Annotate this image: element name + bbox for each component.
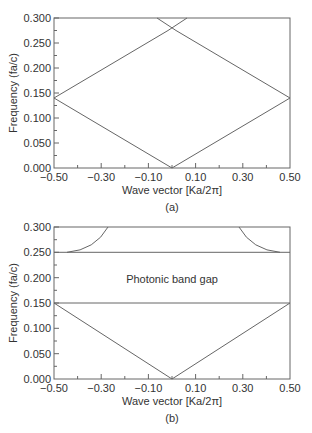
svg-text:0.250: 0.250 — [23, 37, 51, 49]
svg-text:0.100: 0.100 — [23, 322, 51, 334]
chart-a-frame — [54, 18, 290, 168]
chart-b-curves — [54, 227, 290, 379]
chart-a-y-ticks — [54, 18, 59, 156]
svg-text:0.300: 0.300 — [23, 12, 51, 24]
chart-b-band-gap-annotation: Photonic band gap — [126, 273, 218, 285]
chart-a-y-tick-labels: 0.300 0.250 0.200 0.150 0.100 0.050 0.00… — [23, 12, 51, 174]
chart-a-x-axis-label: Wave vector [Ka/2π] — [122, 184, 222, 196]
svg-text:0.10: 0.10 — [185, 382, 206, 394]
chart-b-y-ticks — [54, 227, 59, 366]
svg-text:−0.50: −0.50 — [40, 382, 68, 394]
svg-text:0.250: 0.250 — [23, 246, 51, 258]
chart-a-x-tick-labels: −0.50 −0.30 −0.10 0.10 0.30 0.50 — [40, 171, 301, 183]
svg-text:−0.10: −0.10 — [134, 382, 162, 394]
chart-a-x-ticks — [78, 163, 267, 168]
chart-a-panel-label: (a) — [165, 201, 178, 213]
chart-b-y-axis-label: Frequency (fa/c) — [7, 263, 19, 343]
chart-b-y-tick-labels: 0.300 0.250 0.200 0.150 0.100 0.050 0.00… — [23, 221, 51, 385]
svg-text:0.10: 0.10 — [185, 171, 206, 183]
svg-text:−0.50: −0.50 — [40, 171, 68, 183]
chart-a: 0.300 0.250 0.200 0.150 0.100 0.050 0.00… — [7, 12, 301, 213]
svg-text:0.30: 0.30 — [232, 171, 253, 183]
svg-text:0.150: 0.150 — [23, 87, 51, 99]
chart-a-band-1 — [54, 98, 290, 168]
figure: 0.300 0.250 0.200 0.150 0.100 0.050 0.00… — [0, 0, 312, 433]
chart-a-y-axis-label: Frequency (fa/c) — [7, 53, 19, 133]
chart-b-x-tick-labels: −0.50 −0.30 −0.10 0.10 0.30 0.50 — [40, 382, 301, 394]
svg-text:0.200: 0.200 — [23, 62, 51, 74]
svg-text:0.50: 0.50 — [279, 382, 300, 394]
svg-text:0.300: 0.300 — [23, 221, 51, 233]
chart-b-x-axis-label: Wave vector [Ka/2π] — [122, 395, 222, 407]
chart-b: Photonic band gap 0.300 0.250 0.200 0.15… — [7, 221, 301, 424]
svg-text:0.200: 0.200 — [23, 272, 51, 284]
svg-text:−0.30: −0.30 — [87, 171, 115, 183]
chart-a-curves — [54, 18, 290, 168]
svg-text:0.150: 0.150 — [23, 297, 51, 309]
svg-text:0.050: 0.050 — [23, 348, 51, 360]
chart-b-upper-band-right — [239, 227, 280, 252]
chart-b-lower-band — [54, 303, 290, 379]
svg-text:0.050: 0.050 — [23, 137, 51, 149]
chart-b-x-ticks — [78, 374, 267, 379]
svg-text:−0.10: −0.10 — [134, 171, 162, 183]
svg-text:−0.30: −0.30 — [87, 382, 115, 394]
svg-text:0.30: 0.30 — [232, 382, 253, 394]
chart-a-band-2-left — [54, 18, 187, 98]
svg-text:0.100: 0.100 — [23, 112, 51, 124]
svg-text:0.50: 0.50 — [279, 171, 300, 183]
chart-b-upper-band-left — [67, 227, 108, 252]
chart-a-band-2-right — [157, 18, 290, 98]
chart-b-panel-label: (b) — [165, 412, 178, 424]
